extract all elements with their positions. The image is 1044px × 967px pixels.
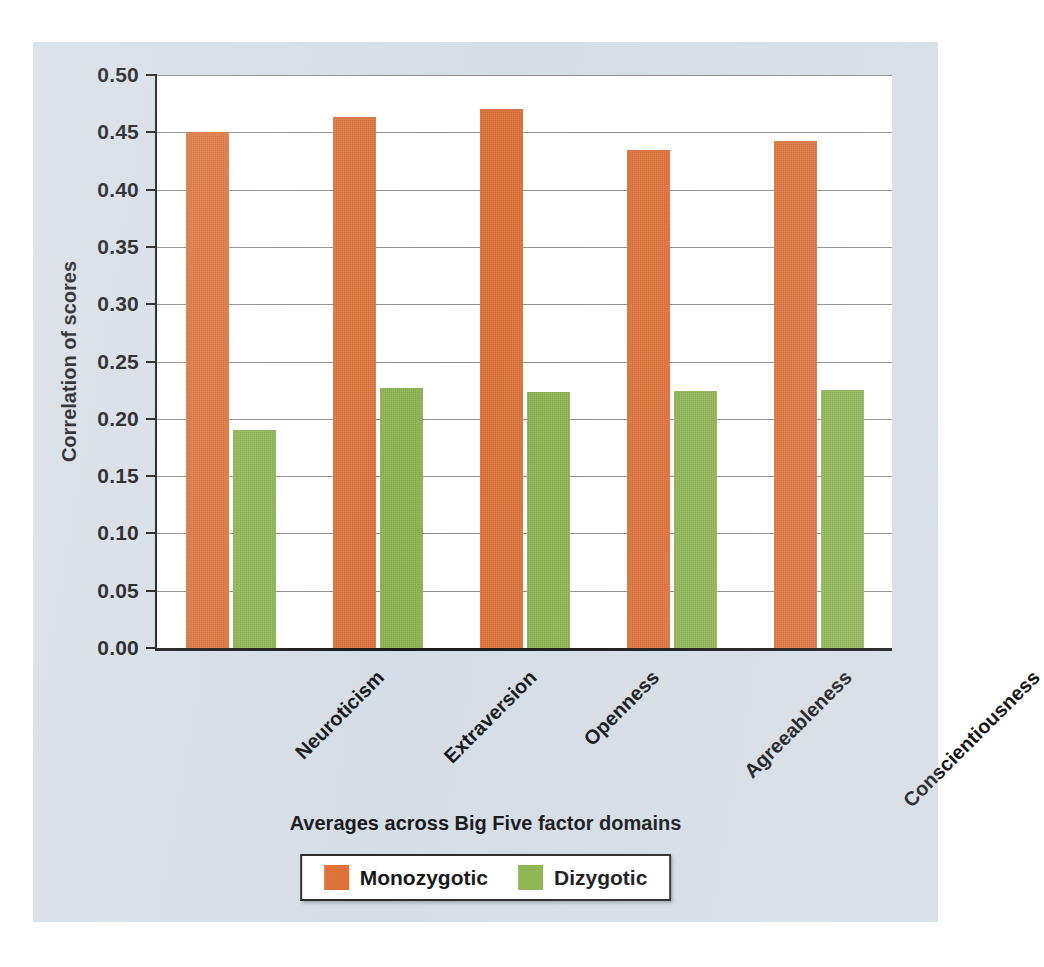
x-axis-tick-label: Openness [579,666,664,751]
y-axis-tick [146,74,157,76]
legend-item-monozygotic[interactable]: Monozygotic [324,865,488,890]
legend-swatch-dizygotic [518,865,543,890]
bar-monozygotic-conscientiousness [774,141,817,648]
legend-swatch-monozygotic [324,865,349,890]
bar-monozygotic-extraversion [333,117,376,648]
legend-label-monozygotic: Monozygotic [360,866,488,890]
y-axis-tick-label: 0.40 [97,178,139,202]
y-axis-tick [146,475,157,477]
x-axis-title: Averages across Big Five factor domains [33,812,938,835]
bar-dizygotic-openness [527,392,570,648]
legend-label-dizygotic: Dizygotic [554,866,647,890]
bar-dizygotic-conscientiousness [821,390,864,648]
y-axis-tick-label: 0.50 [97,63,139,87]
x-axis-tick-label: Agreeableness [739,666,856,783]
y-axis-tick-label: 0.10 [97,521,139,545]
y-axis-tick [146,131,157,133]
y-axis-tick [146,246,157,248]
gridline [157,132,892,133]
x-axis-tick-label: Neuroticism [290,666,388,764]
bar-monozygotic-neuroticism [186,132,229,648]
y-axis-tick [146,418,157,420]
plot-area: 0.000.050.100.150.200.250.300.350.400.45… [155,75,892,651]
y-axis-tick [146,590,157,592]
y-axis-tick-label: 0.20 [97,407,139,431]
chart-figure: Correlation of scores 0.000.050.100.150.… [33,42,938,922]
y-axis-tick-label: 0.05 [97,579,139,603]
y-axis-tick [146,647,157,649]
y-axis-tick [146,361,157,363]
y-axis-tick-label: 0.15 [97,464,139,488]
x-axis-tick-label: Extraversion [439,666,541,768]
bar-dizygotic-extraversion [380,388,423,648]
y-axis-tick [146,532,157,534]
gridline [157,75,892,76]
y-axis-tick-label: 0.35 [97,235,139,259]
bar-dizygotic-neuroticism [233,430,276,648]
legend-item-dizygotic[interactable]: Dizygotic [518,865,647,890]
chart-legend: Monozygotic Dizygotic [300,854,672,901]
y-axis-title-text: Correlation of scores [59,261,82,462]
y-axis-tick-label: 0.25 [97,350,139,374]
y-axis-tick [146,303,157,305]
bar-monozygotic-openness [480,109,523,648]
bar-monozygotic-agreeableness [627,150,670,649]
x-axis-tick-label: Conscientiousness [898,666,1044,812]
y-axis-tick [146,189,157,191]
y-axis-tick-label: 0.00 [97,636,139,660]
y-axis-tick-label: 0.30 [97,292,139,316]
y-axis-title: Correlation of scores [55,75,85,648]
y-axis-tick-label: 0.45 [97,120,139,144]
bar-dizygotic-agreeableness [674,391,717,648]
